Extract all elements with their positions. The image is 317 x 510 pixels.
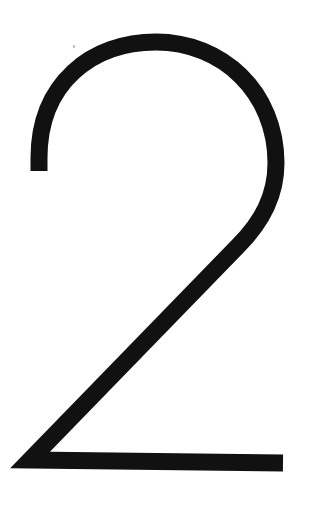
numeral-stroke [30, 42, 283, 463]
scan-speck [73, 45, 75, 48]
numeral-figure: 2 [0, 0, 317, 510]
numeral-two-icon [0, 0, 317, 510]
